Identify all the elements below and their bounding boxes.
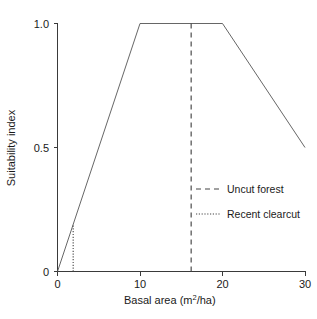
x-axis-title-base: Basal area (m xyxy=(124,294,192,306)
suitability-index-line-chart: 1.0 0.5 0 0 10 20 30 Suitability index B… xyxy=(0,0,317,319)
y-tick-label-0: 0 xyxy=(43,266,49,278)
legend-label-uncut-forest: Uncut forest xyxy=(227,183,284,195)
x-tick-label-10: 10 xyxy=(134,278,146,290)
y-tick-label-1.0: 1.0 xyxy=(34,18,49,30)
legend-label-recent-clearcut: Recent clearcut xyxy=(227,208,300,220)
chart-figure: 1.0 0.5 0 0 10 20 30 Suitability index B… xyxy=(0,0,317,319)
x-axis-title: Basal area (m2/ha) xyxy=(124,293,216,306)
y-tick-label-0.5: 0.5 xyxy=(34,142,49,154)
x-tick-label-20: 20 xyxy=(216,278,228,290)
x-tick-label-30: 30 xyxy=(299,278,311,290)
x-tick-label-0: 0 xyxy=(54,278,60,290)
x-axis-title-tail: /ha) xyxy=(197,294,216,306)
y-axis-title: Suitability index xyxy=(5,109,17,186)
